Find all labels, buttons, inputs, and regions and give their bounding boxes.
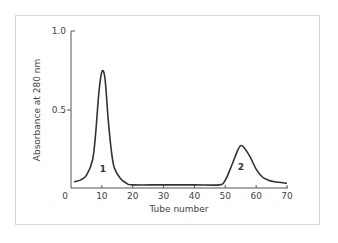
peak-1-label: 1 xyxy=(100,164,106,174)
x-tick-label: 10 xyxy=(96,191,108,201)
x-tick-label: 30 xyxy=(158,191,170,201)
x-tick-label: 50 xyxy=(220,191,232,201)
peak-2-label: 2 xyxy=(238,162,244,172)
x-tick-label: 20 xyxy=(127,191,139,201)
y-tick-labels: 0.51.0 xyxy=(52,26,67,115)
x-axis-label: Tube number xyxy=(148,204,208,214)
y-axis-label: Absorbance at 280 nm xyxy=(32,59,42,161)
x-tick-label: 60 xyxy=(250,191,262,201)
y-tick-label: 0.5 xyxy=(52,105,66,115)
x-ticks: 010203040506070 xyxy=(62,185,293,201)
y-tick-label: 1.0 xyxy=(52,26,67,36)
x-tick-label: 40 xyxy=(189,191,201,201)
x-tick-label: 0 xyxy=(62,191,68,201)
x-tick-label: 70 xyxy=(281,191,293,201)
chart: 010203040506070 0.51.0 1 2 Tube number A… xyxy=(0,0,338,243)
y-axis xyxy=(67,31,75,188)
